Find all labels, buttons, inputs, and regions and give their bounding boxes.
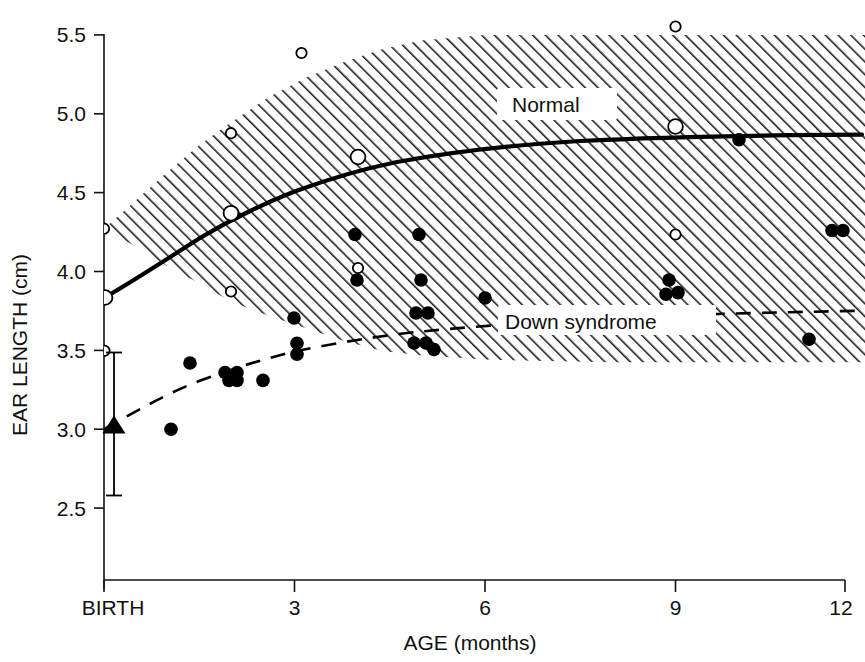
- open-marker-9mo-upper: [670, 21, 680, 31]
- y-axis: 5.5 5.0 4.5 4.0 3.5 3.0 2.5 EAR LENGTH (…: [8, 23, 104, 589]
- data-point: [412, 228, 426, 242]
- open-marker-birth-upper: [99, 224, 109, 234]
- y-tick-label-3.5: 3.5: [57, 339, 86, 362]
- ear-length-growth-chart: 5.5 5.0 4.5 4.0 3.5 3.0 2.5 EAR LENGTH (…: [0, 0, 865, 662]
- normal-range-band: [104, 35, 865, 362]
- data-point: [350, 273, 364, 287]
- open-marker-2mo-lower: [226, 286, 236, 296]
- open-marker-2mo-mean: [224, 206, 239, 221]
- x-tick-label-6: 6: [479, 596, 491, 619]
- data-point: [256, 374, 270, 388]
- open-marker-4mo-lower: [353, 263, 363, 273]
- data-point: [836, 224, 850, 238]
- down-syndrome-birth-marker: [103, 353, 126, 496]
- data-point: [662, 273, 676, 287]
- x-tick-label-9: 9: [670, 596, 682, 619]
- normal-annotation: Normal: [497, 88, 617, 120]
- data-point: [478, 291, 492, 305]
- data-point: [414, 273, 428, 287]
- y-tick-label-3.0: 3.0: [57, 418, 86, 441]
- data-point: [164, 422, 178, 436]
- y-tick-label-4.0: 4.0: [57, 260, 86, 283]
- y-tick-label-5.0: 5.0: [57, 102, 86, 125]
- open-marker-2mo-upper: [226, 128, 236, 138]
- data-point: [802, 333, 816, 347]
- y-tick-label-5.5: 5.5: [57, 23, 86, 46]
- open-marker-birth-mean: [98, 290, 113, 305]
- open-marker-4mo-mean: [351, 150, 366, 165]
- normal-series-label: Normal: [512, 93, 580, 116]
- data-point: [421, 306, 435, 320]
- normal-range-band-fill: [104, 35, 865, 362]
- birth-mean-triangle: [103, 416, 126, 434]
- data-point: [407, 336, 421, 350]
- y-tick-label-4.5: 4.5: [57, 181, 86, 204]
- data-point: [659, 287, 673, 301]
- x-tick-label-birth: BIRTH: [82, 596, 145, 619]
- data-point: [427, 343, 441, 357]
- down-syndrome-series-label: Down syndrome: [505, 310, 657, 333]
- y-tick-label-2.5: 2.5: [57, 497, 86, 520]
- down-syndrome-annotation: Down syndrome: [498, 305, 716, 335]
- x-axis: BIRTH 3 6 9 12 AGE (months): [82, 580, 853, 654]
- open-marker-9mo-mean: [668, 119, 683, 134]
- data-point: [671, 286, 685, 300]
- data-point: [348, 228, 362, 242]
- y-axis-title: EAR LENGTH (cm): [8, 254, 31, 436]
- chart-canvas: 5.5 5.0 4.5 4.0 3.5 3.0 2.5 EAR LENGTH (…: [0, 0, 865, 662]
- x-tick-label-12: 12: [829, 596, 852, 619]
- data-point: [409, 306, 423, 320]
- data-point: [230, 374, 244, 388]
- x-axis-title: AGE (months): [403, 631, 536, 654]
- data-point: [183, 356, 197, 370]
- data-point: [732, 133, 746, 147]
- open-marker-9mo-lower: [670, 229, 680, 239]
- data-point: [290, 347, 304, 361]
- data-point: [287, 311, 301, 325]
- x-tick-label-3: 3: [289, 596, 301, 619]
- open-marker-3mo-upper: [296, 48, 306, 58]
